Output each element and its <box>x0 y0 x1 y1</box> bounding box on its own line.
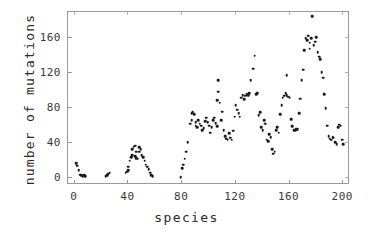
data-point <box>333 137 336 140</box>
data-point <box>214 122 217 125</box>
x-axis-tick-label: 160 <box>278 190 299 203</box>
x-axis-tick <box>235 180 236 184</box>
y-axis-tick-right <box>345 37 348 38</box>
y-axis-tick-right <box>345 177 348 178</box>
data-point <box>206 121 209 124</box>
data-point <box>134 144 137 147</box>
x-axis-tick-top <box>74 12 75 15</box>
x-axis-tick-top <box>342 12 343 15</box>
data-point <box>239 116 242 119</box>
data-point <box>326 124 329 127</box>
data-point <box>84 175 87 178</box>
data-point <box>341 138 344 141</box>
data-point <box>236 109 239 112</box>
data-point <box>184 157 187 160</box>
data-point <box>278 131 281 134</box>
data-point <box>182 164 185 167</box>
data-point <box>321 71 324 74</box>
data-point <box>248 92 251 95</box>
data-point <box>315 36 318 39</box>
data-point <box>218 102 221 105</box>
y-axis-tick <box>68 142 72 143</box>
data-point <box>196 126 199 129</box>
x-axis-tick <box>181 180 182 184</box>
chart-page: 0408012016020004080120160 species number… <box>0 0 373 235</box>
data-point <box>288 96 291 99</box>
data-point <box>142 156 145 159</box>
data-point <box>76 164 79 167</box>
data-point <box>279 113 282 116</box>
data-point <box>311 15 314 18</box>
y-axis-tick <box>68 177 72 178</box>
data-point <box>180 176 183 179</box>
x-axis-tick-label: 120 <box>224 190 245 203</box>
data-point <box>217 90 220 93</box>
data-point <box>310 37 313 40</box>
data-point <box>256 92 259 95</box>
data-point <box>216 125 219 128</box>
data-point <box>193 113 196 116</box>
data-point <box>300 79 303 82</box>
data-point <box>220 119 223 122</box>
data-point <box>217 79 220 82</box>
scatter-points-layer <box>68 12 348 183</box>
data-point <box>108 171 111 174</box>
x-axis-title: species <box>0 210 373 225</box>
data-point <box>137 157 140 160</box>
data-point <box>237 112 240 115</box>
data-point <box>325 107 328 110</box>
data-point <box>232 130 235 133</box>
data-point <box>257 114 260 117</box>
data-point <box>253 54 256 57</box>
data-point <box>186 141 189 144</box>
data-point <box>228 132 231 135</box>
data-point <box>147 168 150 171</box>
x-axis-tick <box>74 180 75 184</box>
data-point <box>308 41 311 44</box>
data-point <box>243 98 246 101</box>
data-point <box>296 128 299 131</box>
x-axis-tick-top <box>289 12 290 15</box>
y-axis-tick-right <box>345 107 348 108</box>
data-point <box>131 148 134 151</box>
data-point <box>308 47 311 50</box>
data-point <box>335 143 338 146</box>
data-point <box>128 159 131 162</box>
data-point <box>267 140 270 143</box>
x-axis-tick-label: 200 <box>332 190 353 203</box>
data-point <box>231 138 234 141</box>
data-point <box>274 151 277 154</box>
data-point <box>189 123 192 126</box>
data-point <box>233 116 236 119</box>
data-point <box>197 119 200 122</box>
data-point <box>210 126 213 129</box>
y-axis-tick-right <box>345 142 348 143</box>
data-point <box>205 116 208 119</box>
data-point <box>213 116 216 119</box>
data-point <box>286 74 289 77</box>
x-axis-tick-top <box>127 12 128 15</box>
data-point <box>312 44 315 47</box>
data-point <box>77 169 80 172</box>
data-point <box>235 104 238 107</box>
x-axis-tick-label: 80 <box>174 190 188 203</box>
x-axis-tick <box>127 180 128 184</box>
data-point <box>127 165 130 168</box>
y-axis-tick-right <box>345 72 348 73</box>
y-axis-title: number of mutations <box>22 10 37 190</box>
data-point <box>263 119 266 122</box>
x-axis-tick <box>342 180 343 184</box>
data-point <box>264 123 267 126</box>
data-point <box>185 151 188 154</box>
x-axis-tick-top <box>181 12 182 15</box>
data-point <box>138 151 141 154</box>
y-axis-tick <box>68 72 72 73</box>
data-point <box>314 40 317 43</box>
data-point <box>259 111 262 114</box>
data-point <box>298 112 301 115</box>
data-point <box>323 93 326 96</box>
data-point <box>221 110 224 113</box>
data-point <box>252 67 255 70</box>
data-point <box>127 169 130 172</box>
data-point <box>290 118 293 121</box>
